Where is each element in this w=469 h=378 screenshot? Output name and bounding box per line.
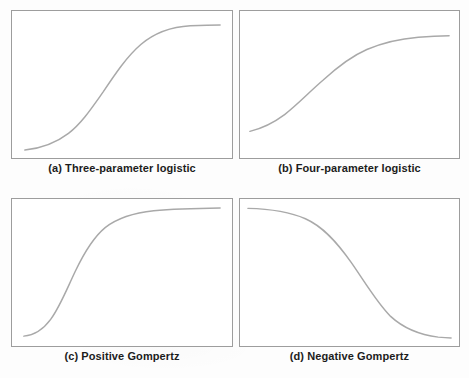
panel-negative-gompertz: (d) Negative Gompertz (239, 198, 460, 347)
panel-four-parameter-logistic: (b) Four-parameter logistic (239, 10, 460, 159)
panel-positive-gompertz: (c) Positive Gompertz (11, 198, 233, 347)
curve-three-parameter-logistic (25, 25, 220, 150)
curve-negative-gompertz (248, 208, 451, 338)
caption-panel-d: (d) Negative Gompertz (239, 350, 460, 362)
panel-three-parameter-logistic: (a) Three-parameter logistic (11, 10, 233, 159)
plot-a-canvas (12, 11, 232, 158)
curve-positive-gompertz (24, 208, 220, 336)
curve-four-parameter-logistic (250, 36, 449, 132)
plot-frame-a (11, 10, 233, 159)
plot-frame-c (11, 198, 233, 347)
sigmoid-models-figure: (a) Three-parameter logistic (b) Four-pa… (0, 0, 469, 378)
plot-c-canvas (12, 199, 232, 346)
plot-frame-b (239, 10, 460, 159)
caption-panel-c: (c) Positive Gompertz (11, 350, 233, 362)
caption-panel-b: (b) Four-parameter logistic (239, 162, 460, 174)
caption-panel-a: (a) Three-parameter logistic (11, 162, 233, 174)
plot-frame-d (239, 198, 460, 347)
plot-d-canvas (240, 199, 459, 346)
plot-b-canvas (240, 11, 459, 158)
